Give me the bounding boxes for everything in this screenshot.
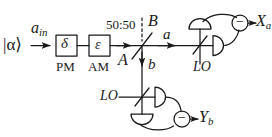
lower-lo-label: LO	[100, 89, 118, 103]
upper-side-signal-wire	[224, 30, 240, 46]
upper-top-signal-wire	[203, 14, 237, 21]
output-xa-subscript: a	[266, 19, 271, 31]
phase-modulator-symbol: δ	[61, 36, 68, 51]
input-mode-subscript: in	[39, 26, 47, 38]
upper-lo-label: LO	[193, 60, 211, 74]
port-b-label: B	[148, 13, 158, 29]
amplitude-modulator-symbol: ε	[95, 38, 101, 52]
lower-subtractor-sign: −	[178, 111, 186, 125]
upper-subtractor-sign: −	[236, 15, 244, 29]
output-b-label: b	[148, 57, 156, 72]
output-yb-subscript: b	[208, 115, 213, 127]
upper-top-photodiode	[189, 19, 211, 30]
lower-side-photodiode	[155, 87, 166, 107]
input-state-label: |α⟩	[3, 36, 22, 53]
lower-bottom-signal-wire	[140, 125, 174, 130]
output-yb-symbol: Y	[199, 108, 208, 125]
phase-modulator-caption: PM	[56, 60, 75, 73]
input-mode-symbol: a	[31, 19, 39, 36]
input-mode-label: ain	[31, 20, 47, 38]
lower-side-signal-wire	[166, 97, 182, 111]
output-xa-label: Xa	[256, 13, 271, 31]
upper-side-photodiode	[213, 36, 224, 56]
beamsplitter-ratio-label: 50:50	[106, 18, 136, 31]
optical-schematic-figure: |α⟩ ain δ PM ε AM 50:50 A B a b LO LO − …	[0, 0, 272, 137]
lower-bottom-photodiode	[131, 114, 153, 125]
output-a-label: a	[163, 27, 171, 42]
output-xa-symbol: X	[256, 12, 266, 29]
output-yb-label: Yb	[199, 109, 213, 127]
port-a-label: A	[118, 52, 128, 68]
amplitude-modulator-caption: AM	[88, 60, 109, 73]
